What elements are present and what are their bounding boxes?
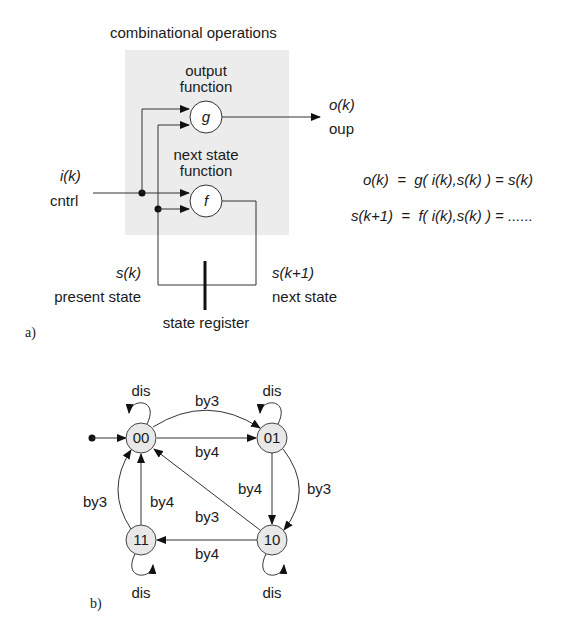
g-symbol: g: [202, 108, 211, 125]
state-10-label: 10: [264, 531, 281, 548]
self-loop-01: [260, 403, 281, 424]
input-name-label: cntrl: [50, 192, 78, 209]
state-node-00: 00: [126, 423, 156, 453]
transition-11-00-by3: [118, 450, 131, 529]
next-state-function-label-2: function: [180, 162, 233, 179]
transition-00-01-by3: [153, 410, 260, 428]
output-equation: o(k) = g( i(k),s(k) ) = s(k): [363, 171, 533, 188]
output-signal-label: o(k): [329, 96, 355, 113]
next-state-function-label-1: next state: [173, 146, 238, 163]
label-10-11-by4: by4: [195, 545, 219, 562]
transition-01-10-by3: [283, 449, 299, 530]
label-loop-10: dis: [262, 584, 281, 601]
state-11-label: 11: [133, 531, 149, 548]
part-a-label: a): [25, 325, 36, 341]
part-b-label: b): [90, 596, 102, 612]
state-01-label: 01: [264, 429, 281, 446]
diagram-canvas: combinational operations output function…: [0, 0, 568, 633]
output-function-label-2: function: [180, 78, 233, 95]
present-state-name-label: present state: [54, 288, 141, 305]
combinational-operations-title: combinational operations: [110, 24, 277, 41]
state-register-label: state register: [163, 314, 250, 331]
label-loop-00: dis: [131, 382, 150, 399]
state-node-11: 11: [126, 525, 156, 555]
state-00-label: 00: [133, 429, 150, 446]
label-01-10-by3: by3: [307, 480, 331, 497]
self-loop-11: [132, 554, 153, 575]
part-a-block-diagram: combinational operations output function…: [25, 24, 533, 341]
label-00-01-by3: by3: [195, 392, 219, 409]
label-11-00-by3: by3: [83, 493, 107, 510]
label-loop-11: dis: [131, 584, 150, 601]
next-state-signal-label: s(k+1): [272, 264, 314, 281]
present-state-signal-label: s(k): [116, 264, 141, 281]
self-loop-00: [129, 403, 150, 424]
output-function-label-1: output: [185, 62, 228, 79]
self-loop-10: [263, 554, 284, 575]
label-10-00-by3: by3: [195, 508, 219, 525]
label-00-01-by4: by4: [195, 443, 219, 460]
output-name-label: oup: [329, 120, 354, 137]
state-node-01: 01: [257, 423, 287, 453]
label-01-10-by4: by4: [238, 480, 262, 497]
state-node-10: 10: [257, 525, 287, 555]
label-loop-01: dis: [262, 382, 281, 399]
label-11-00-by4: by4: [150, 493, 174, 510]
next-state-name-label: next state: [272, 288, 337, 305]
part-b-state-diagram: 00 01 10 11 dis dis dis dis by3 by4 by4 …: [83, 382, 331, 612]
next-state-equation: s(k+1) = f( i(k),s(k) ) = ......: [351, 207, 533, 224]
input-signal-label: i(k): [60, 167, 81, 184]
